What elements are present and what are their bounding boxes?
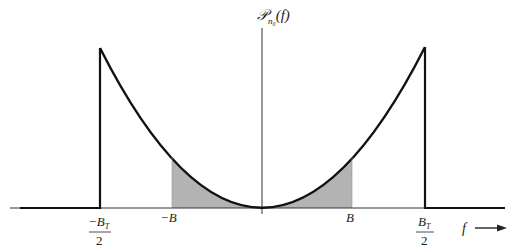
arrow-right-icon (497, 225, 507, 232)
svg-text:2: 2 (96, 233, 103, 247)
svg-text:−BT: −BT (88, 214, 110, 231)
svg-text:2: 2 (421, 233, 428, 247)
tick-label-neg-bt-half: −BT 2 (88, 214, 111, 247)
x-axis-label: f (462, 221, 468, 236)
tick-label-pos-b: B (346, 210, 354, 225)
tick-label-neg-b: −B (160, 210, 177, 225)
svg-text:BT: BT (418, 214, 431, 231)
tick-label-pos-bt-half: BT 2 (416, 214, 434, 247)
y-axis-label: 𝒫n₀(f) (257, 7, 290, 26)
psd-diagram: 𝒫n₀(f) −BT 2 −B B BT 2 f (0, 0, 516, 247)
